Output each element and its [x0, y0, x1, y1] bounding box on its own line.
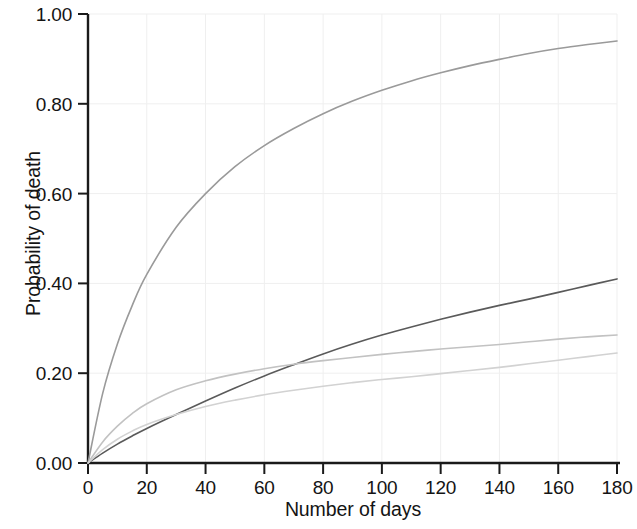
curve-curve-3-middle: [88, 335, 617, 463]
x-tick-label: 20: [136, 477, 157, 498]
x-axis-ticks: 020406080100120140160180: [83, 463, 633, 498]
x-tick-label: 120: [425, 477, 456, 498]
y-tick-label: 0.20: [36, 363, 72, 384]
chart-figure: 0.000.200.400.600.801.00 020406080100120…: [0, 0, 637, 529]
y-axis-title: Probability of death: [22, 104, 45, 364]
x-tick-label: 180: [601, 477, 632, 498]
x-tick-label: 140: [484, 477, 515, 498]
probability-of-death-line-chart: 0.000.200.400.600.801.00 020406080100120…: [0, 0, 637, 529]
x-tick-label: 80: [313, 477, 334, 498]
curve-curve-2-dark: [88, 279, 617, 463]
y-tick-label: 0.00: [36, 453, 72, 474]
x-tick-label: 100: [366, 477, 397, 498]
y-tick-label: 1.00: [36, 4, 72, 25]
curve-curve-4-lowest: [88, 353, 617, 463]
x-tick-label: 40: [195, 477, 216, 498]
x-tick-label: 160: [543, 477, 574, 498]
x-axis-title: Number of days: [88, 498, 618, 521]
x-tick-label: 60: [254, 477, 275, 498]
x-tick-label: 0: [83, 477, 93, 498]
gridlines: [88, 14, 617, 463]
